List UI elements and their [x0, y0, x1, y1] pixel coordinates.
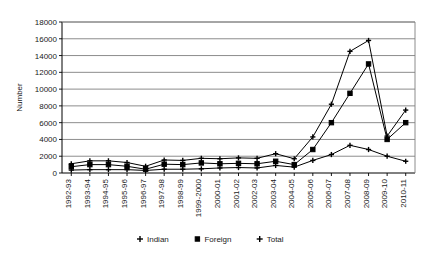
y-axis-tick-label: 8000	[39, 102, 57, 111]
series-total	[69, 38, 409, 169]
legend-marker	[195, 237, 199, 241]
data-point-marker	[366, 62, 370, 66]
data-point-marker	[348, 91, 352, 95]
x-axis-tick-label: 1997-98	[157, 178, 166, 208]
x-axis-tick-label: 1999-2000	[194, 178, 203, 217]
y-axis-tick-label: 18000	[35, 18, 58, 27]
x-axis-tick-label: 2006-07	[324, 178, 333, 208]
x-axis-tick-label: 2008-09	[362, 178, 371, 208]
y-axis-tick-label: 14000	[35, 52, 58, 61]
x-axis-tick-label: 2002-03	[250, 178, 259, 208]
x-axis-tick-label: 2007-08	[343, 178, 352, 208]
data-point-marker	[292, 162, 296, 166]
data-point-marker	[255, 162, 259, 166]
y-axis-tick-label: 12000	[35, 68, 58, 77]
legend-item-indian[interactable]: Indian	[137, 235, 169, 244]
legend-label: Indian	[147, 235, 169, 244]
x-axis-tick-label: 1994-95	[101, 178, 110, 208]
chart-container: 0200040006000800010000120001400016000180…	[0, 0, 424, 254]
legend-item-foreign[interactable]: Foreign	[195, 235, 231, 244]
x-axis-tick-label: 1998-99	[176, 178, 185, 208]
series-line	[71, 64, 405, 169]
y-axis-tick-label: 2000	[39, 152, 57, 161]
legend: IndianForeignTotal	[137, 235, 284, 244]
data-point-marker	[199, 161, 203, 165]
x-axis-tick-label: 2000-01	[213, 178, 222, 208]
data-point-marker	[162, 162, 166, 166]
legend-item-total[interactable]: Total	[257, 235, 284, 244]
line-chart: 0200040006000800010000120001400016000180…	[0, 0, 424, 254]
y-axis-tick-label: 0	[53, 169, 58, 178]
data-point-marker	[218, 162, 222, 166]
data-point-marker	[181, 162, 185, 166]
x-axis-tick-label: 2003-04	[269, 178, 278, 208]
data-point-marker	[329, 120, 333, 124]
data-point-marker	[404, 120, 408, 124]
legend-label: Foreign	[204, 235, 231, 244]
x-axis-tick-label: 2009-10	[380, 178, 389, 208]
gridlines-group: 0200040006000800010000120001400016000180…	[35, 18, 415, 178]
x-axis-tick-label: 2004-05	[287, 178, 296, 208]
y-axis-tick-label: 16000	[35, 35, 58, 44]
x-axis-tick-label: 1992-93	[64, 178, 73, 208]
x-axis-tick-label: 1996-97	[139, 178, 148, 208]
y-axis-tick-label: 4000	[39, 135, 57, 144]
legend-label: Total	[267, 235, 284, 244]
x-axis-tick-label: 1993-94	[83, 178, 92, 208]
y-axis-tick-label: 6000	[39, 119, 57, 128]
data-point-marker	[236, 161, 240, 165]
x-axis-tick-label: 2005-06	[306, 178, 315, 208]
x-axis-tick-label: 2010-11	[399, 178, 408, 207]
y-axis-tick-label: 10000	[35, 85, 58, 94]
x-axis-tick-label: 2001-02	[232, 178, 241, 208]
x-axis-tick-label: 1995-96	[120, 178, 129, 208]
data-point-marker	[273, 159, 277, 163]
series-foreign	[69, 62, 408, 172]
y-axis-label: Number	[15, 83, 24, 112]
data-point-marker	[311, 147, 315, 151]
x-axis-labels-group: 1992-931993-941994-951995-961996-971997-…	[64, 173, 407, 217]
series-line	[71, 40, 405, 166]
